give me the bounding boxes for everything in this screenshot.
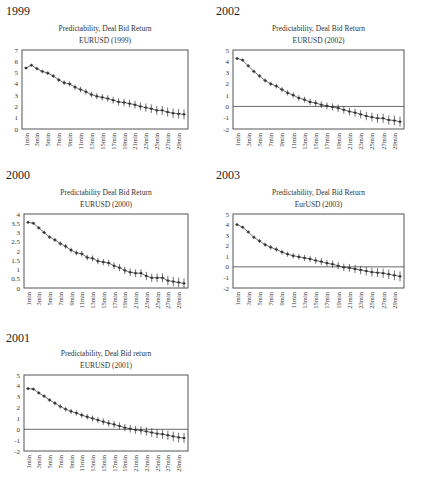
x-tick-label: 29min (175, 132, 182, 149)
x-tick-label: 15min (312, 291, 319, 308)
y-tick-label: 5 (15, 69, 19, 77)
y-tick-label: -1 (223, 114, 229, 122)
data-point (393, 274, 395, 276)
data-point (281, 89, 283, 91)
data-point (151, 432, 153, 434)
data-point (315, 260, 317, 262)
x-tick-label: 9min (68, 454, 75, 468)
data-point (326, 262, 328, 264)
y-tick-label: 1 (15, 114, 19, 122)
x-tick-label: 19min (121, 291, 128, 308)
y-tick-label: 5 (226, 211, 230, 219)
data-point (315, 102, 317, 104)
data-point (49, 399, 51, 401)
x-tick-label: 15min (100, 454, 107, 471)
data-point (337, 107, 339, 109)
data-point (183, 282, 185, 284)
data-point (118, 101, 120, 103)
x-tick-label: 27min (164, 132, 171, 149)
x-tick-label: 9min (68, 291, 75, 305)
data-point (139, 105, 141, 107)
data-point (58, 79, 60, 81)
panel-year-label: 2001 (6, 331, 30, 346)
x-tick-label: 1min (234, 132, 241, 146)
chart-title: Predictability, Deal Bid return (61, 349, 152, 358)
data-point (97, 260, 99, 262)
y-tick-label: 0 (226, 263, 230, 271)
y-tick-label: 7 (15, 47, 19, 55)
data-point (97, 419, 99, 421)
x-tick-label: 7min (57, 291, 64, 305)
data-point (247, 231, 249, 233)
data-point (183, 437, 185, 439)
chart-subtitle: EURUSD (2000) (80, 200, 132, 209)
x-tick-label: 23min (143, 454, 150, 471)
data-point (371, 271, 373, 273)
data-point (145, 430, 147, 432)
data-point (140, 272, 142, 274)
chart-title: Predictability, Deal Bid Return (272, 188, 365, 197)
x-tick-label: 29min (175, 291, 182, 308)
x-tick-label: 25min (153, 132, 160, 149)
x-tick-label: 29min (391, 291, 398, 308)
data-point (326, 105, 328, 107)
data-point (135, 429, 137, 431)
x-tick-label: 5min (44, 132, 51, 146)
y-tick-label: 2 (226, 80, 230, 88)
data-point (399, 121, 401, 123)
y-tick-label: 4 (17, 211, 21, 219)
x-tick-label: 15min (99, 132, 106, 149)
data-point (86, 256, 88, 258)
data-point (178, 281, 180, 283)
data-point (108, 262, 110, 264)
data-point (264, 79, 266, 81)
line-chart-2003: Predictability, Deal Bid ReturnEurUSD (2… (210, 164, 421, 324)
data-point (118, 267, 120, 269)
y-tick-label: 1 (17, 415, 21, 423)
x-tick-label: 17min (111, 454, 118, 471)
data-point (150, 108, 152, 110)
x-tick-label: 11min (290, 132, 297, 149)
data-point (399, 275, 401, 277)
y-tick-label: 2 (17, 248, 21, 256)
x-tick-label: 7min (267, 291, 274, 305)
x-tick-label: 3min (35, 454, 42, 468)
data-point (124, 427, 126, 429)
data-point (54, 239, 56, 241)
data-point (270, 83, 272, 85)
data-point (75, 252, 77, 254)
x-tick-label: 23min (357, 291, 364, 308)
data-point (151, 277, 153, 279)
data-point (47, 72, 49, 74)
data-point (360, 113, 362, 115)
x-tick-label: 27min (164, 291, 171, 308)
y-tick-label: -2 (14, 448, 20, 456)
y-tick-label: 5 (226, 47, 230, 55)
data-point (123, 101, 125, 103)
chart-title: Predictability Deal Bid Return (60, 188, 152, 197)
data-point (101, 96, 103, 98)
x-tick-label: 3min (245, 291, 252, 305)
data-point (343, 266, 345, 268)
x-tick-label: 21min (346, 132, 353, 149)
data-point (348, 267, 350, 269)
data-point (247, 65, 249, 67)
y-tick-label: -2 (223, 285, 229, 293)
y-tick-label: 3 (17, 393, 21, 401)
y-tick-label: -1 (223, 274, 229, 282)
x-tick-label: 11min (290, 291, 297, 308)
data-point (354, 268, 356, 270)
x-tick-label: 21min (132, 291, 139, 308)
panel-year-label: 2000 (6, 168, 30, 183)
data-point (32, 388, 34, 390)
data-point (178, 436, 180, 438)
data-point (292, 94, 294, 96)
y-tick-label: 4 (15, 80, 19, 88)
data-point (65, 245, 67, 247)
data-point (30, 64, 32, 66)
data-point (298, 256, 300, 258)
data-point (183, 113, 185, 115)
data-point (303, 257, 305, 259)
x-tick-label: 1min (25, 291, 32, 305)
data-point (36, 68, 38, 70)
